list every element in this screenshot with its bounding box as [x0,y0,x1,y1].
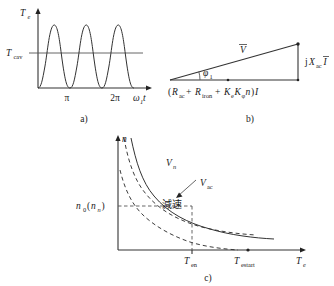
panel-b-vertical-label-x-sub: ac [316,62,322,69]
panel-c-xtick-label-en: T [184,256,190,266]
panel-c-speed-torque: n n 0 ( n n ) V n V ac 減速 T en T estart … [58,128,334,286]
panel-b-vertex-bottom-dot [297,79,300,82]
figure-root: T e T cav π 2π ω 1 t a) V φ 1 [0,0,334,286]
panel-b-vertical-label-j: j [304,57,308,67]
panel-a-y-axis-arrow [35,8,40,14]
panel-a-torque-pulsation: T e T cav π 2π ω 1 t a) [0,0,168,128]
panel-c-decel-leader-line [178,180,196,196]
panel-c-curve-vac [124,138,256,235]
panel-c-y-tick-n0-sub: 0 [83,206,86,213]
panel-b-base-plus2: + [215,87,220,97]
panel-c-curve-label-vn: V [166,158,173,168]
panel-c-x-axis-label-sub: e [303,261,306,268]
panel-c-curve-label-vac-sub: ac [207,183,213,190]
panel-c-x-axis-arrow [300,247,306,252]
panel-c-xtick-label-estart-sub: estart [241,261,255,268]
panel-b-vertical-label-x: X [308,57,316,67]
panel-c-curve-label-vn-sub: n [173,163,176,170]
panel-a-threshold-label: T [6,48,12,58]
panel-b-base-n: n [246,87,251,97]
panel-c-y-tick-close-paren: ) [102,201,105,212]
panel-c-xtick-label-estart: T [234,256,240,266]
panel-b-base-k-phi: K [234,87,242,97]
panel-a-x-axis-arrow [146,85,152,90]
panel-a-xtick-pi: π [65,93,70,103]
panel-a-y-axis-label-sub: e [28,13,31,20]
panel-b-base-r-iron-sub: iron [202,92,213,99]
panel-b-phasor-diagram: V φ 1 j X ac I ( R ac + R iron + K e K φ… [166,0,334,128]
panel-c-y-tick-nn-sub: n [98,206,101,213]
panel-c-y-tick-nn: n [91,201,96,211]
panel-c-y-axis-label: n [122,134,127,144]
panel-a-x-axis-label: ω [133,93,140,103]
panel-b-hypotenuse-line [170,44,298,80]
panel-b-base-r-ac: R [171,87,178,97]
panel-b-base-i: I [254,87,259,97]
panel-b-base-plus1: + [186,87,191,97]
panel-c-xtick-label-en-sub: en [191,261,198,268]
panel-c-deceleration-annotation: 減速 [162,198,182,210]
panel-b-hypotenuse-label: V [240,45,247,55]
panel-b-caption: b) [246,114,254,125]
panel-c-y-tick-n0: n [76,201,81,211]
panel-c-caption: c) [204,273,211,284]
panel-b-base-r-ac-sub: ac [179,92,185,99]
panel-a-caption: a) [80,114,87,125]
panel-c-curve-vn [131,138,274,239]
panel-c-y-tick-open-paren: ( [87,201,90,212]
panel-b-vertical-label-i: I [323,57,328,67]
panel-b-base-open-paren: ( [168,87,171,98]
panel-c-xtick-mark-estart [246,248,249,251]
panel-a-torque-waveform [38,25,134,88]
panel-b-vertex-top-dot [296,42,299,45]
panel-c-curve-decel [120,170,238,250]
panel-a-xtick-2pi: 2π [110,93,120,103]
panel-c-y-tick-label: n 0 ( n n ) [76,201,105,213]
panel-c-curve-label-vac: V [200,178,207,188]
panel-c-y-axis-arrow [115,135,120,141]
panel-b-base-r-iron: R [194,87,201,97]
panel-b-base-label: ( R ac + R iron + K e K φ n ) I [168,87,259,99]
panel-a-x-axis-label-t: t [143,93,146,103]
panel-c-x-axis-label: T [296,256,302,266]
panel-b-base-close-paren: ) [251,87,254,98]
panel-b-angle-label-sub: 1 [210,73,213,80]
panel-a-y-axis-label: T [20,8,26,18]
panel-b-base-mid-dot [227,79,230,82]
panel-b-angle-label: φ [203,68,208,78]
panel-b-base-k-e: K [223,87,231,97]
panel-a-threshold-label-sub: cav [14,53,24,60]
panel-b-angle-arc [199,72,200,80]
